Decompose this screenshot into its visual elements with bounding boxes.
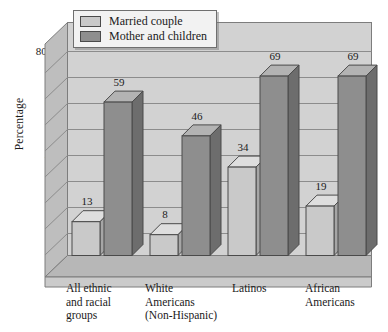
chart-legend: Married couple Mother and children <box>73 10 217 48</box>
bar-value-69-african: 69 <box>336 51 370 62</box>
bar-value-69-latinos: 69 <box>258 51 292 62</box>
legend-label-married-couple: Married couple <box>109 15 183 28</box>
bar-value-13: 13 <box>70 196 104 207</box>
category-label-all-ethnic: All ethnic and racial groups <box>66 282 144 323</box>
legend-item-mother-and-children: Mother and children <box>80 29 207 44</box>
bar-value-46: 46 <box>180 111 214 122</box>
legend-label-mother-and-children: Mother and children <box>109 30 207 43</box>
bar-value-59: 59 <box>102 77 136 88</box>
legend-swatch-married-couple <box>80 16 101 27</box>
legend-item-married-couple: Married couple <box>80 14 207 29</box>
x-axis-category-labels: All ethnic and racial groups White Ameri… <box>0 282 388 332</box>
bar-chart: Percentage 80% 70 60 50 40 30 20 10 0 <box>0 0 388 332</box>
bar-value-8: 8 <box>148 209 182 220</box>
category-label-latinos: Latinos <box>232 282 302 296</box>
bar-value-19: 19 <box>304 181 338 192</box>
legend-swatch-mother-and-children <box>80 31 101 42</box>
category-label-african-americans: African Americans <box>305 282 385 309</box>
category-label-white-americans: White Americans (Non-Hispanic) <box>145 282 237 323</box>
bar-value-34: 34 <box>226 142 260 153</box>
